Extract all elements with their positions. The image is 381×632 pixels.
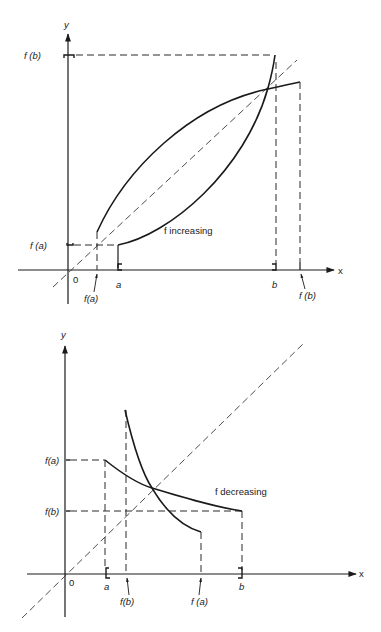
fa-x-label: f (a) [191,596,208,607]
y-axis-label: y [63,19,70,30]
figure: y x 0 f (b) f (a) f increasing f(a) a b … [0,0,381,632]
fb-x-label: f (b) [299,290,316,301]
caption-decreasing: f decreasing [215,486,267,497]
fb-x-label: f(b) [120,596,134,607]
x-axis-label: x [359,568,364,579]
a-bracket [118,264,122,270]
a-x-label: a [104,581,109,592]
b-x-label: b [239,581,244,592]
fb-x-pointer [301,274,305,289]
fa-x-pointer [199,578,201,595]
fb-y-label: f(b) [45,506,59,517]
fb-x-pointer [127,578,129,595]
origin-label: 0 [73,274,78,285]
a-bracket [106,568,110,578]
fb-y-label: f (b) [24,50,41,61]
a-x-label: a [116,279,121,290]
fa-y-label: f(a) [45,455,59,466]
origin-label: 0 [69,577,74,588]
y-axis-label: y [60,329,67,340]
diagram-decreasing: y x 0 f(a) f(b) f decreasing a f(b) f (a… [22,329,364,618]
b-x-label: b [272,279,277,290]
diagram-increasing: y x 0 f (b) f (a) f increasing f(a) a b … [18,19,343,304]
curve-lower [118,55,275,245]
x-axis-label: x [338,265,343,276]
fa-y-label: f (a) [30,240,47,251]
curve-upper [97,82,300,232]
identity-line [22,343,304,618]
fb-y-tick [64,55,74,58]
identity-line [53,60,297,287]
b-bracket [272,264,276,270]
fa-x-pointer [94,274,97,292]
caption-increasing: f increasing [164,225,213,236]
curve-steep [125,410,201,532]
b-bracket [238,568,242,578]
fa-x-label: f(a) [84,293,98,304]
